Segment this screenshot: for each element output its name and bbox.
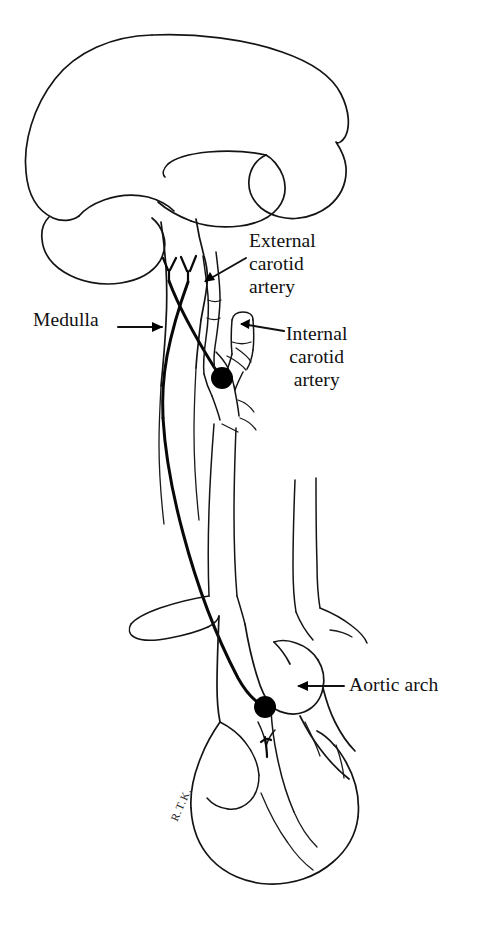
cranial-nerve-rootlets [163, 256, 196, 282]
medulla-arrowhead [152, 322, 163, 332]
nerve-fibers [163, 281, 265, 707]
carotid-sinus-receptor-dot [211, 367, 233, 389]
label-internal-carotid-line2: carotid [289, 346, 344, 367]
figure-canvas: .ink { fill:none; stroke:#141414; stroke… [0, 0, 483, 928]
heart-outline [191, 711, 359, 884]
aortic-arch [217, 616, 355, 779]
label-internal-carotid-line1: Internal [286, 323, 347, 344]
label-internal-carotid-line3: artery [294, 369, 340, 390]
internal-carotid-arrowhead [240, 319, 250, 329]
aortic-arch-arrowhead [297, 681, 308, 691]
aortic-arch-receptor-dot [254, 696, 276, 718]
cerebrum-outline [25, 35, 348, 227]
label-aortic-arch: Aortic arch [349, 673, 438, 696]
label-external-carotid-line2: carotid [249, 253, 304, 274]
cerebellum-outline [42, 202, 165, 284]
common-carotid-artery [208, 424, 320, 612]
label-internal-carotid-artery: Internalcarotidartery [286, 322, 347, 391]
anatomical-line-drawing: .ink { fill:none; stroke:#141414; stroke… [0, 0, 483, 928]
label-external-carotid-line1: External [249, 230, 316, 251]
label-medulla: Medulla [33, 308, 99, 331]
label-external-carotid-line3: artery [249, 276, 295, 297]
subclavian-arteries [129, 596, 367, 643]
label-external-carotid-artery: Externalcarotidartery [249, 229, 316, 298]
